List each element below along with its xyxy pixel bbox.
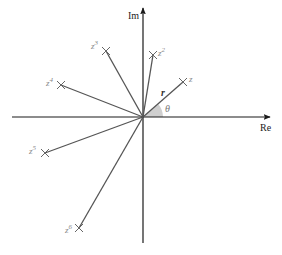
modulus-label: r (161, 87, 165, 98)
imag-axis-label: Im (128, 10, 139, 21)
label-z3: z3 (90, 39, 99, 51)
complex-plane-diagram: Im Re r θ z z2 z3 z4 z5 z6 (0, 0, 282, 255)
cross-marker-icon (179, 78, 187, 86)
point-markers (41, 47, 187, 232)
vectors (45, 51, 183, 228)
label-z5: z5 (28, 144, 37, 156)
cross-marker-icon (57, 81, 65, 89)
cross-marker-icon (75, 224, 83, 232)
vector-z6 (79, 117, 143, 228)
label-z6: z6 (64, 223, 73, 235)
vector-z4 (61, 85, 143, 117)
cross-marker-icon (102, 47, 110, 55)
cross-marker-icon (41, 149, 49, 157)
point-labels: z z2 z3 z4 z5 z6 (28, 39, 193, 235)
angle-label: θ (165, 103, 170, 114)
vector-z3 (106, 51, 143, 117)
label-z4: z4 (45, 76, 54, 88)
label-z2: z2 (157, 46, 166, 58)
vector-z2 (143, 55, 153, 117)
real-axis-label: Re (260, 122, 272, 133)
vector-z5 (45, 117, 143, 153)
label-z: z (188, 74, 193, 84)
